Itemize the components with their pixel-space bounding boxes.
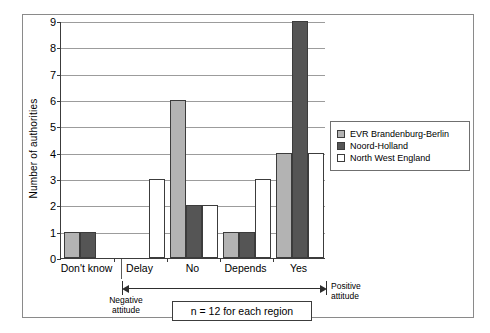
bar[interactable] xyxy=(149,179,165,258)
bar[interactable] xyxy=(255,179,271,258)
x-axis-labels: Don't knowDelayNoDependsYes xyxy=(60,262,325,278)
attitude-arrow xyxy=(122,284,327,294)
x-tick-label: Delay xyxy=(126,262,153,274)
bar[interactable] xyxy=(276,153,292,258)
bar[interactable] xyxy=(80,232,96,258)
bar[interactable] xyxy=(170,100,186,258)
bar-series-container xyxy=(61,22,325,258)
bar-group xyxy=(117,22,165,258)
legend-swatch-icon xyxy=(337,142,345,150)
legend-item[interactable]: EVR Brandenburg-Berlin xyxy=(337,129,463,139)
legend-swatch-icon xyxy=(337,154,345,162)
arrow-head-left-icon xyxy=(122,285,129,293)
bar[interactable] xyxy=(223,232,239,258)
bar[interactable] xyxy=(202,205,218,258)
positive-attitude-line2: attitude xyxy=(331,291,401,301)
legend-item[interactable]: Noord-Holland xyxy=(337,141,463,151)
bar-group xyxy=(64,22,112,258)
bar-group xyxy=(276,22,324,258)
bar[interactable] xyxy=(64,232,80,258)
positive-attitude-line1: Positive xyxy=(331,281,401,291)
negative-attitude-line1: Negative xyxy=(83,295,169,305)
x-tick-label: Depends xyxy=(224,262,266,274)
y-axis-label: Number of authorities xyxy=(28,69,39,229)
bar-group xyxy=(223,22,271,258)
legend-label: EVR Brandenburg-Berlin xyxy=(350,129,449,139)
x-tick-label: Don't know xyxy=(61,262,113,274)
arrow-line xyxy=(128,288,321,289)
legend-swatch-icon xyxy=(337,130,345,138)
bar[interactable] xyxy=(239,232,255,258)
legend-item[interactable]: North West England xyxy=(337,153,463,163)
bar[interactable] xyxy=(292,21,308,258)
bar[interactable] xyxy=(186,205,202,258)
sample-size-text: n = 12 for each region xyxy=(191,305,293,317)
sample-size-box: n = 12 for each region xyxy=(172,301,312,321)
negative-attitude-line2: attitude xyxy=(83,305,169,315)
positive-attitude-label: Positive attitude xyxy=(331,281,401,301)
x-tick-label: Yes xyxy=(290,262,307,274)
category-divider xyxy=(121,259,122,279)
legend-label: Noord-Holland xyxy=(350,141,408,151)
legend-label: North West England xyxy=(350,153,430,163)
x-tick-label: No xyxy=(186,262,199,274)
negative-attitude-label: Negative attitude xyxy=(83,295,169,315)
bar[interactable] xyxy=(308,153,324,258)
figure-container: Number of authorities 0123456789 Don't k… xyxy=(0,0,490,333)
chart-legend: EVR Brandenburg-BerlinNoord-HollandNorth… xyxy=(330,121,470,171)
arrow-head-right-icon xyxy=(320,285,327,293)
bar-group xyxy=(170,22,218,258)
plot-area: 0123456789 xyxy=(60,22,325,259)
